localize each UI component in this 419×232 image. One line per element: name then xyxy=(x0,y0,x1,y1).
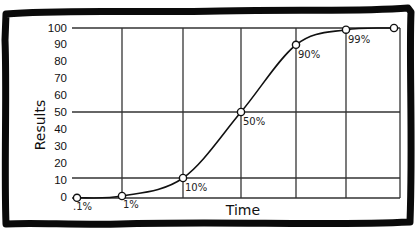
data-point-label: .1% xyxy=(73,201,92,212)
y-tick-label: 10 xyxy=(54,174,67,186)
data-point-marker xyxy=(237,108,244,115)
y-tick-label: 20 xyxy=(54,157,67,169)
y-tick-label: 70 xyxy=(54,72,67,84)
data-point-label: 50% xyxy=(243,116,265,127)
x-axis-label: Time xyxy=(225,202,260,218)
s-curve-chart: 0102030405060708090100 .1%1%10%50%90%99%… xyxy=(0,0,419,232)
y-tick-label: 90 xyxy=(54,38,67,50)
y-axis-ticks: 0102030405060708090100 xyxy=(48,22,67,203)
data-point-label: 90% xyxy=(298,49,320,60)
data-point-marker xyxy=(390,24,397,31)
y-tick-label: 30 xyxy=(54,140,67,152)
data-point-label: 99% xyxy=(348,34,370,45)
y-tick-label: 60 xyxy=(54,89,67,101)
y-tick-label: 0 xyxy=(61,191,67,203)
data-point-label: 10% xyxy=(185,182,207,193)
data-point-marker xyxy=(292,41,299,48)
y-tick-label: 80 xyxy=(54,55,67,67)
y-tick-label: 50 xyxy=(54,106,67,118)
data-point-marker xyxy=(179,174,186,181)
y-tick-label: 40 xyxy=(54,123,67,135)
data-point-marker xyxy=(342,26,349,33)
y-tick-label: 100 xyxy=(48,22,67,34)
grid xyxy=(72,28,400,198)
y-axis-label: Results xyxy=(32,100,48,151)
data-point-label: 1% xyxy=(123,199,139,210)
